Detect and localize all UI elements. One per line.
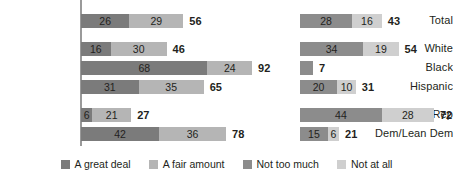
bar-segment: 34: [300, 42, 363, 56]
bar-net-total: 78: [232, 127, 244, 141]
bar-segment-value: 19: [363, 42, 398, 56]
bar-net-total: 43: [388, 14, 400, 28]
bar-net-total: 27: [137, 108, 149, 122]
stacked-bar-chart: Total262956281643White163046341954Black6…: [0, 0, 453, 176]
bar-segment: 16: [352, 14, 382, 28]
row-label-total: Total: [375, 13, 453, 27]
bar-segment: 31: [81, 80, 139, 94]
bar-net-total: 92: [258, 61, 270, 75]
bar-segment: 16: [81, 42, 111, 56]
bar-segment: 10: [337, 80, 356, 94]
bar-segment: 35: [139, 80, 204, 94]
bar-segment: 21: [92, 108, 131, 122]
bar-segment: 42: [81, 127, 159, 141]
legend-swatch-icon: [243, 160, 252, 169]
row-label-dem-lean-dem: Dem/Lean Dem: [375, 126, 453, 140]
bar-segment-value: 44: [300, 108, 382, 122]
bar-segment: 26: [81, 14, 129, 28]
bar-segment: 15: [300, 127, 328, 141]
bar-segment: 29: [129, 14, 183, 28]
legend-swatch-icon: [337, 160, 346, 169]
legend-label: A great deal: [75, 158, 131, 170]
legend-item[interactable]: A great deal: [61, 158, 131, 170]
bar-segment: 6: [81, 108, 92, 122]
bar-segment-value: 28: [382, 108, 434, 122]
row-label-hispanic: Hispanic: [375, 79, 453, 93]
bar-segment: 19: [363, 42, 398, 56]
chart-legend: A great dealA fair amountNot too muchNot…: [0, 156, 453, 172]
bar-net-total: 54: [405, 42, 417, 56]
chart-row: Hispanic313565201031: [0, 80, 453, 94]
bar-segment-value: 30: [111, 42, 167, 56]
bar-segment: 68: [81, 61, 207, 75]
bar-net-total: 56: [189, 14, 201, 28]
bar-segment-value: 26: [81, 14, 129, 28]
bar-segment: [300, 61, 313, 75]
bar-segment-value: 34: [300, 42, 363, 56]
chart-row: White163046341954: [0, 42, 453, 56]
bar-segment-value: 10: [337, 80, 356, 94]
legend-item[interactable]: Not too much: [243, 158, 319, 170]
bar-net-total: 21: [345, 127, 357, 141]
bar-segment-value: 15: [300, 127, 328, 141]
bar-segment-value: 35: [139, 80, 204, 94]
bar-segment-value: 68: [81, 61, 207, 75]
bar-net-total: 72: [440, 108, 452, 122]
chart-row: Rep/Lean Rep62127442872: [0, 108, 453, 122]
bar-net-total: 7: [319, 61, 325, 75]
chart-row: Black6824927: [0, 61, 453, 75]
bar-segment: 44: [300, 108, 382, 122]
bar-segment-value: 24: [207, 61, 252, 75]
bar-net-total: 65: [210, 80, 222, 94]
bar-segment: 24: [207, 61, 252, 75]
bar-segment: 28: [382, 108, 434, 122]
legend-item[interactable]: A fair amount: [149, 158, 225, 170]
bar-net-total: 46: [173, 42, 185, 56]
bar-segment: 20: [300, 80, 337, 94]
bar-segment-value: 29: [129, 14, 183, 28]
bar-segment: 6: [328, 127, 339, 141]
legend-label: Not too much: [257, 158, 319, 170]
bar-segment-value: 42: [81, 127, 159, 141]
legend-swatch-icon: [61, 160, 70, 169]
bar-net-total: 31: [362, 80, 374, 94]
bar-segment-value: 16: [352, 14, 382, 28]
bar-segment: 28: [300, 14, 352, 28]
bar-segment-value: 6: [81, 108, 92, 122]
legend-swatch-icon: [149, 160, 158, 169]
chart-row: Dem/Lean Dem42367815621: [0, 127, 453, 141]
bar-segment: 36: [159, 127, 226, 141]
bar-segment-value: 6: [328, 127, 339, 141]
bar-segment-value: 20: [300, 80, 337, 94]
legend-label: A fair amount: [163, 158, 225, 170]
legend-item[interactable]: Not at all: [337, 158, 392, 170]
row-label-black: Black: [375, 60, 453, 74]
bar-segment-value: 28: [300, 14, 352, 28]
bar-segment-value: 16: [81, 42, 111, 56]
bar-segment-value: 21: [92, 108, 131, 122]
chart-row: Total262956281643: [0, 14, 453, 28]
legend-label: Not at all: [351, 158, 392, 170]
bar-segment-value: 31: [81, 80, 139, 94]
bar-segment: 30: [111, 42, 167, 56]
bar-segment-value: 36: [159, 127, 226, 141]
